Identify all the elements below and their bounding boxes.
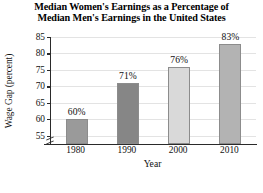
y-axis-tick-label: 55 <box>36 131 45 141</box>
bar-1990: 71% <box>117 83 139 144</box>
y-axis-tick <box>47 37 52 38</box>
y-axis-tick-label: 65 <box>36 98 45 108</box>
bar-value-label: 71% <box>119 70 137 81</box>
y-axis-tick-label: 75 <box>36 65 45 75</box>
y-axis-tick-label: 60 <box>36 114 45 124</box>
y-axis-tick <box>47 86 52 87</box>
chart-title-line-2: Median Men's Earnings in the United Stat… <box>0 12 263 23</box>
y-axis-tick <box>47 103 52 104</box>
x-axis-tick-label: 2000 <box>169 145 188 155</box>
y-axis-tick <box>47 53 52 54</box>
x-axis-tick-label: 2010 <box>220 145 239 155</box>
y-axis-tick-label: 85 <box>36 32 45 42</box>
y-axis-tick-label: 80 <box>36 48 45 58</box>
bar-2000: 76% <box>168 67 190 144</box>
bar-1980: 60% <box>66 119 88 144</box>
bar-2010: 83% <box>219 44 241 144</box>
bar-value-label: 76% <box>170 54 188 65</box>
y-axis-tick <box>47 70 52 71</box>
chart-title-line-1: Median Women's Earnings as a Percentage … <box>0 1 263 12</box>
bar-value-label: 83% <box>222 31 240 42</box>
x-axis-tick-label: 1990 <box>118 145 137 155</box>
chart-figure: Median Women's Earnings as a Percentage … <box>0 0 263 193</box>
y-axis-title: Wage Gap (percent) <box>2 38 16 144</box>
plot-area: 5560657075808560%71%76%83% <box>50 37 255 144</box>
y-axis-tick <box>47 119 52 120</box>
y-axis-tick-label: 70 <box>36 81 45 91</box>
y-axis-break-icon <box>46 136 55 146</box>
chart-title: Median Women's Earnings as a Percentage … <box>0 1 263 24</box>
y-axis-title-text: Wage Gap (percent) <box>4 54 14 129</box>
x-axis-title: Year <box>50 158 255 169</box>
x-axis-tick-label: 1980 <box>66 145 85 155</box>
bar-value-label: 60% <box>68 106 86 117</box>
